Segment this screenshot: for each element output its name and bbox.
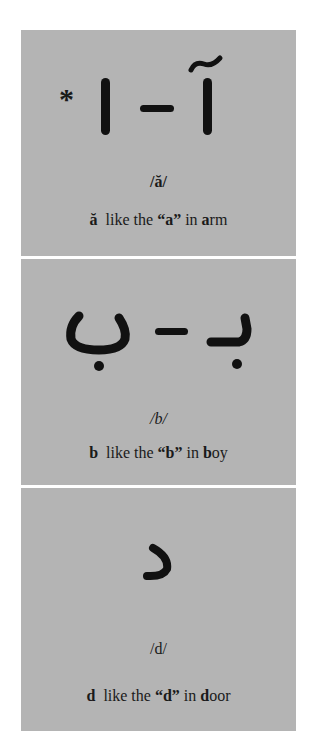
asterisk-marker: * [59,82,74,116]
latin-letter: d [86,687,95,704]
letter-card-dal: /d/ d like the “d” in door [21,488,296,731]
madda-mark [191,58,220,70]
be-forms-glyph [59,304,259,379]
example-word: door [200,687,230,704]
phoneme: /ă/ [21,173,296,191]
be-isolated [70,316,125,350]
alef-madda-stroke [203,78,212,135]
pronunciation-hint: ă like the “a” in arm [21,211,296,229]
example-word: boy [203,444,228,461]
alef-isolated-stroke [101,78,110,135]
phoneme: /d/ [21,640,296,658]
letter-forms [21,543,296,583]
letter-card-be: /b/ b like the “b” in boy [21,259,296,485]
dash [155,328,188,335]
phoneme: /b/ [21,410,296,428]
dash [140,105,174,112]
latin-letter: b [89,444,98,461]
example-word: arm [202,211,228,228]
be-initial [211,318,247,342]
pronunciation-hint: b like the “b” in boy [21,444,296,462]
letter-cards: * /ă/ ă like the “a” in arm [21,30,296,731]
dal-glyph [139,543,179,583]
letter-forms [21,304,296,379]
alef-forms-glyph [88,48,258,143]
pronunciation-hint: d like the “d” in door [21,687,296,705]
letter-forms: * [21,48,296,143]
latin-letter: ă [90,211,98,228]
letter-card-alef: * /ă/ ă like the “a” in arm [21,30,296,256]
